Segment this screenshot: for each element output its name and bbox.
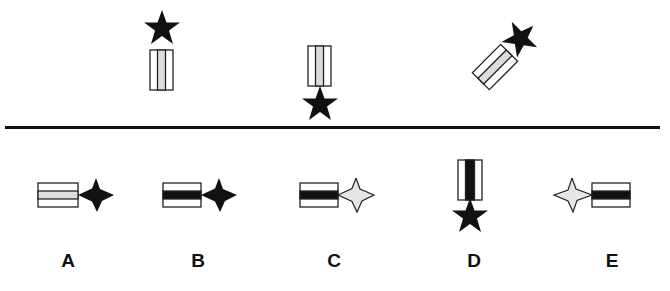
option-a-label[interactable]: A <box>53 250 83 272</box>
sequence-medal-1 <box>140 8 184 92</box>
option-e-medal <box>552 178 634 218</box>
star-icon <box>144 10 180 44</box>
star-icon <box>302 86 338 120</box>
option-b-label[interactable]: B <box>183 250 213 272</box>
star-icon <box>452 198 488 232</box>
divider-line <box>5 126 660 129</box>
star-icon <box>554 178 592 212</box>
option-c-label[interactable]: C <box>319 250 349 272</box>
option-d-medal <box>450 158 494 236</box>
option-c-medal <box>298 178 380 218</box>
sequence-medal-3 <box>465 15 545 95</box>
option-b-medal <box>161 178 243 218</box>
star-icon <box>201 178 237 212</box>
option-d-label[interactable]: D <box>459 250 489 272</box>
sequence-medal-2 <box>300 44 344 126</box>
option-e-label[interactable]: E <box>597 250 627 272</box>
star-icon <box>78 178 114 212</box>
star-icon <box>338 178 374 212</box>
option-a-medal <box>36 178 118 218</box>
